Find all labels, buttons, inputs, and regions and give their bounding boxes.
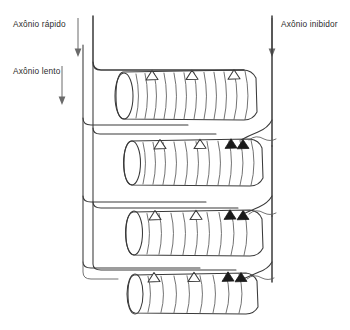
label-slow-axon: Axônio lento: [13, 66, 60, 76]
inhibitory-axon-trunk: [241, 16, 272, 282]
inhibitory-synapse: [225, 139, 249, 149]
label-inhibitory-axon: Axônio inibidor: [281, 19, 338, 29]
excitatory-synapse: [194, 139, 206, 148]
excitatory-synapse: [186, 70, 198, 79]
label-fast-axon: Axônio rápido: [13, 19, 66, 29]
figure-root: .ink { fill: none; stroke: #3a3a3a; stro…: [0, 0, 350, 330]
excitatory-synapse: [148, 273, 160, 283]
excitatory-synapse: [228, 70, 240, 79]
muscle-fiber-3: [126, 210, 264, 256]
inhibitory-synapse: [224, 210, 249, 220]
muscle-fiber-2: [124, 139, 264, 186]
muscle-fiber-4: [127, 272, 258, 314]
neuromuscular-innervation-diagram: .ink { fill: none; stroke: #3a3a3a; stro…: [0, 0, 350, 330]
fast-axon-direction-arrow: [75, 18, 82, 57]
excitatory-synapse: [190, 210, 202, 219]
muscle-fiber-1: [115, 70, 257, 120]
